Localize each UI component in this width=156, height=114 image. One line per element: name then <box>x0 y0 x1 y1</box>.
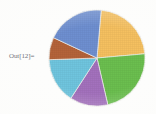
pie-chart-svg <box>48 9 146 107</box>
pie-slice-group <box>49 10 145 106</box>
slice-orange[interactable] <box>97 10 145 58</box>
output-prompt-label: Out[12]= <box>9 50 45 62</box>
pie-chart[interactable] <box>48 9 146 107</box>
notebook-output-cell: Out[12]= <box>0 0 156 114</box>
